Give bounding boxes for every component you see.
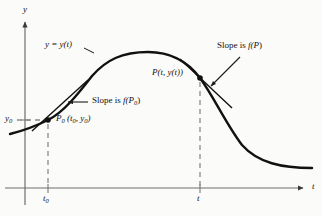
point-label-p: P(t, y(t)) [152,68,183,77]
curve-equation-label: y = y(t) [45,40,72,49]
slope-label-p0-prefix: Slope is [92,95,121,105]
tick-label-t0-subscript: 0 [46,197,49,204]
y-axis-label: y [23,5,27,14]
tick-label-t0: t0 [43,194,49,204]
slope-label-p0-suffix: ) [137,95,140,105]
tick-label-t-base: t [197,193,200,203]
x-axis-label: t [312,182,315,191]
point-label-p-coords: (t, y(t)) [158,67,183,77]
slope-label-p-fn-text: f(P [248,40,259,50]
leader-line-slope-p [211,57,240,86]
point-marker-p [197,75,203,81]
leader-line-curve-label [84,48,94,53]
slope-label-p-prefix: Slope is [217,40,246,50]
point-label-p0-paren-close: ) [88,113,91,123]
tick-label-t: t [197,194,200,203]
value-label-y0-subscript: 0 [9,117,12,124]
point-label-p0: P0 (t0, y0) [56,114,91,124]
slope-label-p: Slope is f(P) [217,41,262,50]
slope-label-p-suffix: ) [259,40,262,50]
figure-container: y t t0 t y0 y = y(t) P0 (t0, y0) P(t, y(… [0,0,322,216]
diagram-canvas [0,0,322,216]
value-label-y0: y0 [5,114,12,124]
slope-label-p0: Slope is f(P0) [92,96,140,106]
point-marker-p0 [45,117,51,123]
slope-label-p0-fn-text: f(P [123,95,134,105]
